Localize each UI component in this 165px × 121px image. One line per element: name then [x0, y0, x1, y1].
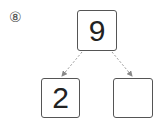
- arrow-left-icon: [62, 52, 82, 76]
- whole-number-box: 9: [77, 10, 117, 51]
- part-left-box: 2: [41, 78, 80, 118]
- arrow-right-icon: [112, 52, 132, 76]
- part-right-answer-box[interactable]: [113, 78, 153, 118]
